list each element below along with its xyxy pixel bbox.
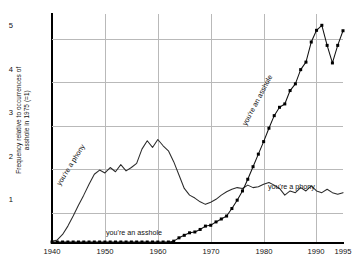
y-tick-3: 3 bbox=[0, 108, 13, 117]
x-tick-1960: 1960 bbox=[138, 247, 178, 256]
x-tick-1995: 1995 bbox=[323, 247, 359, 256]
y-axis-title: Frequency relative to occurrences of ass… bbox=[15, 40, 31, 200]
annotation-phony-right: you're a phony bbox=[268, 182, 315, 191]
y-tick-5: 5 bbox=[0, 21, 13, 30]
annotation-asshole-baseline: you're an asshole bbox=[106, 228, 162, 237]
chart-figure: Frequency relative to occurrences of ass… bbox=[0, 0, 359, 276]
x-tick-1970: 1970 bbox=[191, 247, 231, 256]
plot-area bbox=[52, 14, 343, 242]
line-asshole bbox=[52, 25, 343, 242]
y-tick-1: 1 bbox=[0, 195, 13, 204]
y-tick-4: 4 bbox=[0, 65, 13, 74]
x-tick-1950: 1950 bbox=[85, 247, 125, 256]
series-layer bbox=[52, 14, 343, 242]
y-tick-2: 2 bbox=[0, 152, 13, 161]
x-tick-1980: 1980 bbox=[244, 247, 284, 256]
markers-asshole bbox=[51, 24, 345, 244]
x-tick-1940: 1940 bbox=[32, 247, 72, 256]
